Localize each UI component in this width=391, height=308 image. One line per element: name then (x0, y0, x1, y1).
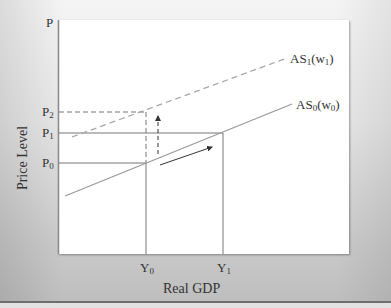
p2-sub: 2 (49, 110, 54, 120)
p0-sub: 0 (49, 161, 54, 171)
y0-sub: 0 (149, 266, 154, 276)
x-axis-label: Real GDP (163, 282, 220, 296)
p2-label: P2 (42, 105, 54, 120)
y1-sub: 1 (226, 266, 231, 276)
p0-label: P0 (42, 156, 54, 171)
as0-label: AS0(w0) (296, 98, 340, 113)
p1-label: P1 (42, 126, 54, 141)
diagram-canvas (0, 0, 391, 308)
as1-label: AS1(w1) (290, 52, 334, 67)
as0-curve (65, 104, 292, 196)
y0-main: Y (140, 260, 149, 275)
y1-label: Y1 (217, 261, 231, 276)
y1-main: Y (217, 260, 226, 275)
move-along-arrow (160, 147, 212, 165)
y-axis-label: Price Level (15, 113, 31, 203)
p1-sub: 1 (49, 131, 54, 141)
as1-curve (72, 58, 287, 137)
y-axis-symbol: P (46, 16, 53, 29)
y0-label: Y0 (140, 261, 154, 276)
